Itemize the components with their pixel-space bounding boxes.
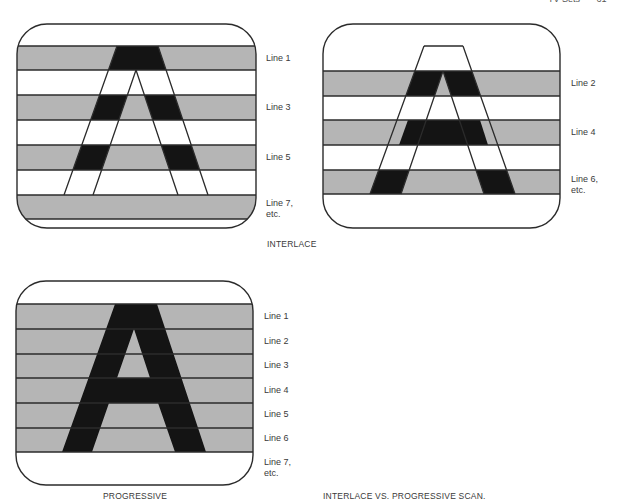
label-fig3-line6: Line 6 [264, 433, 289, 444]
progressive-figure [16, 281, 253, 485]
label-fig3-line3: Line 3 [264, 360, 289, 371]
label-fig3-line2: Line 2 [264, 336, 289, 347]
label-fig3-line7: Line 7, etc. [264, 457, 291, 479]
interlace-odd-figure [17, 24, 256, 228]
label-fig3-line1: Line 1 [264, 311, 289, 322]
scan-diagrams [0, 0, 621, 501]
label-fig3-line4: Line 4 [264, 385, 289, 396]
label-fig1-line7: Line 7, etc. [266, 198, 293, 220]
label-fig1-line1: Line 1 [266, 53, 291, 64]
label-fig1-line5: Line 5 [266, 152, 291, 163]
label-fig2-line4: Line 4 [571, 127, 596, 138]
label-fig1-line3: Line 3 [266, 102, 291, 113]
label-fig2-line2: Line 2 [571, 78, 596, 89]
interlace-caption: INTERLACE [267, 239, 317, 249]
scan-line-3 [17, 95, 256, 120]
scan-line-7 [17, 195, 256, 219]
figure-caption: INTERLACE VS. PROGRESSIVE SCAN. [323, 491, 486, 501]
label-fig2-line6: Line 6, etc. [571, 174, 598, 196]
progressive-caption: PROGRESSIVE [103, 491, 167, 501]
scan-line-5 [17, 145, 256, 170]
interlace-even-figure [323, 24, 560, 228]
scan-line-6 [323, 170, 560, 194]
label-fig3-line5: Line 5 [264, 409, 289, 420]
